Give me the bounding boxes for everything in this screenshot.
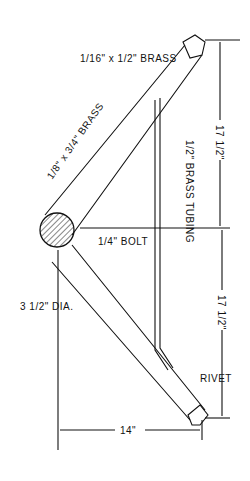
lower-arm — [52, 245, 205, 420]
label-lower-dim: 17 1/2" — [216, 295, 227, 330]
label-upper-dim: 17 1/2" — [214, 125, 225, 160]
label-rivet: RIVET — [200, 373, 232, 384]
label-tubing: 1/2" BRASS TUBING — [184, 140, 195, 243]
brass-tubing — [155, 98, 173, 370]
label-width-dim: 14" — [120, 425, 136, 436]
hub-circle — [40, 213, 74, 247]
bottom-fitting — [188, 405, 208, 425]
label-top-strap: 1/16" x 1/2" BRASS — [80, 53, 177, 64]
top-fitting — [183, 35, 205, 58]
label-hub-dia: 3 1/2" DIA. — [20, 301, 74, 312]
label-upper-strap: 1/8" x 3/4" BRASS — [45, 101, 106, 182]
drawing-canvas: 1/16" x 1/2" BRASS 1/8" x 3/4" BRASS 1/2… — [0, 0, 250, 481]
label-bolt: 1/4" BOLT — [98, 236, 148, 247]
